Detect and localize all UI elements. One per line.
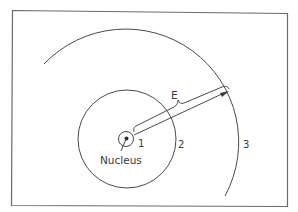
diagram-frame bbox=[12, 11, 288, 207]
shell-1-label: 1 bbox=[138, 138, 144, 149]
transition-arrow-line bbox=[134, 93, 224, 135]
energy-label: E bbox=[171, 89, 178, 101]
shell-2-label: 2 bbox=[178, 139, 184, 150]
shell-3-arc bbox=[44, 29, 239, 196]
shell-3-label: 3 bbox=[243, 139, 249, 150]
energy-brace bbox=[134, 86, 229, 132]
atom-shell-diagram: E Nucleus 1 2 3 bbox=[0, 0, 298, 212]
nucleus-label: Nucleus bbox=[100, 154, 142, 166]
